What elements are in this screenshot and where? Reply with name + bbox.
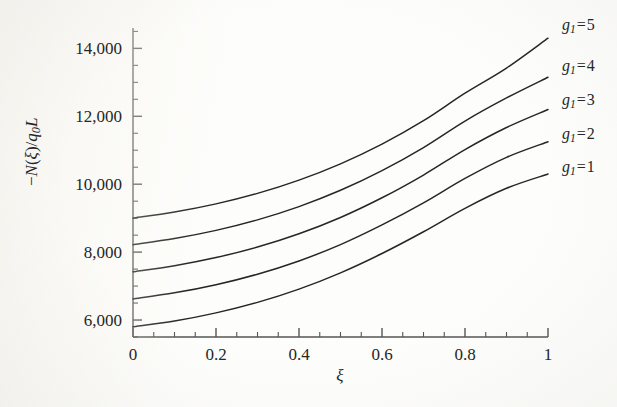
series-label-value: 1 bbox=[587, 158, 595, 175]
series-label: g1=2 bbox=[562, 125, 595, 144]
figure-container: −N(ξ)/q0L ξ 6,0008,00010,00012,00014,000… bbox=[0, 0, 617, 407]
y-tick-label: 14,000 bbox=[0, 40, 122, 57]
y-tick-label: 8,000 bbox=[0, 244, 122, 261]
series-label-subscript: 1 bbox=[570, 23, 576, 35]
y-tick-label: 12,000 bbox=[0, 108, 122, 125]
x-tick-label: 1 bbox=[544, 346, 553, 363]
series-label-value: 3 bbox=[587, 91, 595, 108]
series-curve bbox=[133, 142, 548, 299]
series-label-equals: = bbox=[576, 125, 587, 142]
series-label: g1=5 bbox=[562, 16, 595, 35]
series-label: g1=4 bbox=[562, 57, 595, 76]
series-label-subscript: 1 bbox=[570, 132, 576, 144]
series-label-equals: = bbox=[576, 158, 587, 175]
x-tick-label: 0.2 bbox=[205, 346, 226, 363]
series-label-g: g bbox=[562, 16, 570, 33]
x-tick-label: 0 bbox=[129, 346, 138, 363]
series-curve bbox=[133, 77, 548, 244]
series-label-subscript: 1 bbox=[570, 98, 576, 110]
series-label-value: 5 bbox=[587, 16, 595, 33]
series-curve bbox=[133, 174, 548, 327]
y-axis-title-q: q bbox=[22, 133, 41, 142]
y-tick-label: 6,000 bbox=[0, 312, 122, 329]
series-label-subscript: 1 bbox=[570, 165, 576, 177]
x-tick-label: 0.8 bbox=[454, 346, 475, 363]
x-axis-title: ξ bbox=[336, 366, 343, 386]
y-axis-title-paren-open: ( bbox=[22, 159, 41, 165]
y-axis-title-xi: ξ bbox=[22, 152, 41, 159]
series-label-g: g bbox=[562, 57, 570, 74]
series-label: g1=3 bbox=[562, 91, 595, 110]
y-tick-label: 10,000 bbox=[0, 176, 122, 193]
y-axis-title-subzero: 0 bbox=[29, 127, 43, 133]
series-label-subscript: 1 bbox=[570, 64, 576, 76]
series-curve bbox=[133, 38, 548, 218]
x-tick-label: 0.6 bbox=[371, 346, 392, 363]
series-label-value: 2 bbox=[587, 125, 595, 142]
y-axis-title-paren-close: ) bbox=[22, 146, 41, 152]
y-axis-title-slash: / bbox=[22, 142, 41, 147]
series-label-equals: = bbox=[576, 16, 587, 33]
series-label-g: g bbox=[562, 158, 570, 175]
series-label-equals: = bbox=[576, 91, 587, 108]
series-label-g: g bbox=[562, 125, 570, 142]
series-label-value: 4 bbox=[587, 57, 595, 74]
series-label-equals: = bbox=[576, 57, 587, 74]
series-label-g: g bbox=[562, 91, 570, 108]
x-tick-label: 0.4 bbox=[288, 346, 309, 363]
series-label: g1=1 bbox=[562, 158, 595, 177]
